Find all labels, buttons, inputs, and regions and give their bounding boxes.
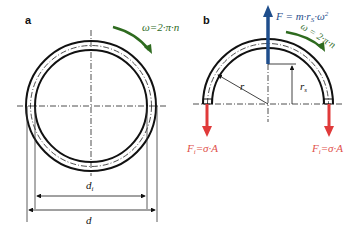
tension-force-right-label: Fi=σ·A (311, 142, 343, 156)
panel-b: b r rs F = m·rS·ω2 ω = 2·π·n Fi=σ·A F (186, 5, 344, 156)
panel-a-label: a (25, 14, 32, 26)
inner-diameter-label: di (86, 179, 94, 193)
panel-b-label: b (203, 14, 210, 26)
rs-label: rs (300, 80, 307, 94)
force-label: F = m·rS·ω2 (275, 10, 329, 24)
outer-diameter-label: d (86, 214, 92, 226)
force-down-right-arrowhead-icon (324, 126, 334, 137)
diagram-canvas: a ω=2·π·n di d b (0, 0, 360, 237)
omega-label-a: ω=2·π·n (142, 21, 180, 33)
tension-force-left-label: Fi=σ·A (186, 142, 218, 156)
force-up-arrowhead-icon (263, 5, 273, 17)
radius-label: r (240, 80, 245, 92)
panel-a: a ω=2·π·n di d (17, 14, 180, 226)
force-down-left-arrowhead-icon (202, 126, 212, 137)
